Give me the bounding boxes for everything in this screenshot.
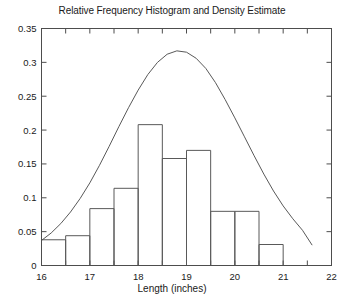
x-tick-label: 22 bbox=[326, 271, 337, 282]
x-tick-label: 16 bbox=[36, 271, 47, 282]
x-axis-tick-labels: 16171819202122 bbox=[36, 271, 337, 282]
histogram-bar-outline bbox=[42, 125, 284, 266]
x-tick-label: 17 bbox=[85, 271, 96, 282]
density-estimate-curve bbox=[42, 51, 313, 245]
y-tick-label: 0.35 bbox=[18, 23, 37, 34]
y-tick-label: 0.05 bbox=[18, 226, 37, 237]
y-tick-label: 0.15 bbox=[18, 158, 37, 169]
x-tick-label: 21 bbox=[278, 271, 289, 282]
x-tick-label: 19 bbox=[181, 271, 192, 282]
y-axis-tick-labels: 00.050.10.150.20.250.30.35 bbox=[18, 23, 37, 271]
x-tick-label: 18 bbox=[133, 271, 144, 282]
histogram-figure: Relative Frequency Histogram and Density… bbox=[0, 0, 344, 303]
x-tick-label: 20 bbox=[230, 271, 241, 282]
y-tick-label: 0.1 bbox=[23, 192, 36, 203]
histogram-bars bbox=[42, 125, 284, 266]
plot-area: 00.050.10.150.20.250.30.35 1617181920212… bbox=[0, 0, 344, 303]
y-tick-label: 0.3 bbox=[23, 57, 36, 68]
y-tick-label: 0.2 bbox=[23, 125, 36, 136]
x-axis-label: Length (inches) bbox=[0, 283, 344, 294]
y-tick-label: 0.25 bbox=[18, 91, 37, 102]
y-tick-label: 0 bbox=[31, 260, 36, 271]
